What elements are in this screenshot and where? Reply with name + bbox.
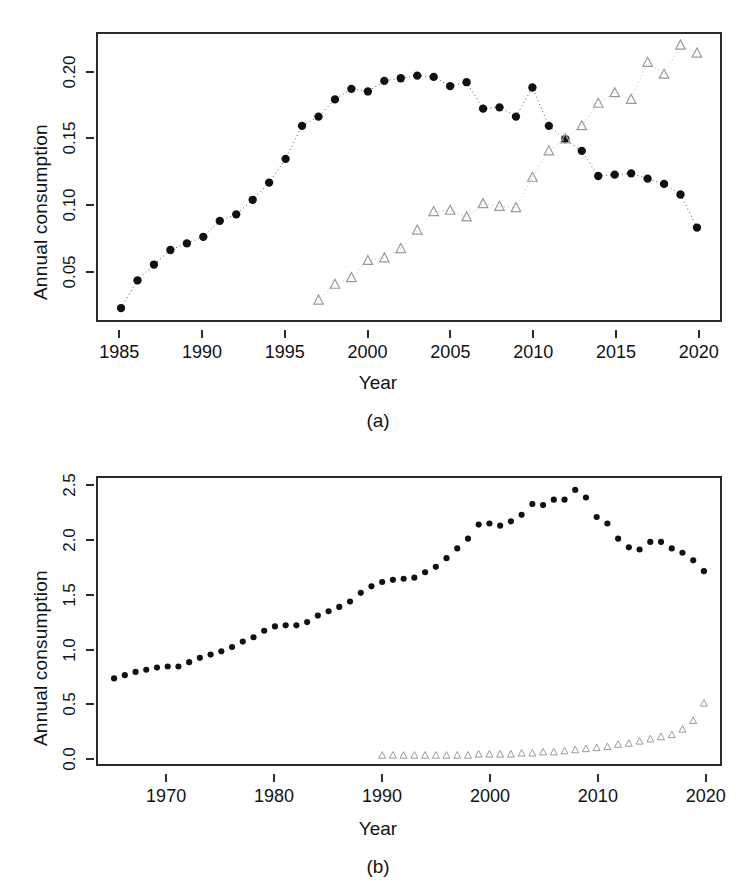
data-point-triangle — [422, 752, 429, 759]
data-point-circle — [433, 564, 439, 570]
data-point-circle — [594, 514, 600, 520]
data-point-circle — [298, 122, 306, 130]
data-point-triangle — [380, 253, 390, 262]
data-point-circle — [397, 74, 405, 82]
data-point-circle — [165, 663, 171, 669]
data-point-circle — [443, 555, 449, 561]
data-point-circle — [462, 78, 470, 86]
x-tick-label: 1970 — [126, 786, 206, 807]
y-tick-mark — [86, 758, 94, 760]
data-point-circle — [199, 233, 207, 241]
data-point-circle — [658, 539, 664, 545]
x-tick-label: 2010 — [558, 786, 638, 807]
data-point-circle — [611, 171, 619, 179]
panel-a-letter: (a) — [0, 410, 756, 432]
data-point-circle — [111, 675, 117, 681]
y-tick-mark — [86, 703, 94, 705]
panel-b-y-axis-title: Annual consumption — [30, 570, 52, 746]
y-tick-label: 0.0 — [60, 748, 80, 772]
data-point-triangle — [636, 738, 643, 745]
data-point-circle — [261, 628, 267, 634]
data-point-circle — [476, 522, 482, 528]
data-point-circle — [454, 545, 460, 551]
data-point-triangle — [700, 700, 707, 707]
x-tick-label: 1980 — [234, 786, 314, 807]
data-point-circle — [331, 95, 339, 103]
series-connector-line — [121, 76, 697, 308]
data-point-circle — [519, 512, 525, 518]
data-point-circle — [150, 260, 158, 268]
data-point-circle — [336, 604, 342, 610]
data-point-circle — [132, 669, 138, 675]
data-point-circle — [358, 590, 364, 596]
x-tick-mark — [165, 774, 167, 782]
y-tick-mark — [86, 539, 94, 541]
data-point-triangle — [396, 244, 406, 253]
data-point-triangle — [443, 752, 450, 759]
data-point-triangle — [454, 752, 461, 759]
x-tick-label: 2000 — [450, 786, 530, 807]
x-tick-label: 1990 — [342, 786, 422, 807]
data-point-circle — [249, 196, 257, 204]
x-tick-label: 2005 — [410, 342, 490, 363]
data-point-circle — [512, 112, 520, 120]
x-tick-label: 1995 — [245, 342, 325, 363]
data-point-circle — [208, 652, 214, 658]
data-point-triangle — [445, 205, 455, 214]
data-point-triangle — [615, 741, 622, 748]
data-point-circle — [364, 87, 372, 95]
data-point-circle — [413, 71, 421, 79]
data-point-triangle — [462, 212, 472, 221]
x-tick-mark — [615, 330, 617, 338]
data-point-circle — [679, 550, 685, 556]
y-tick-label: 0.05 — [60, 256, 80, 289]
data-point-triangle — [692, 48, 702, 57]
y-tick-label: 1.5 — [60, 583, 80, 607]
data-point-triangle — [400, 752, 407, 759]
data-point-circle — [578, 147, 586, 155]
data-point-triangle — [658, 733, 665, 740]
panel-b-data-layer — [98, 478, 720, 764]
data-point-triangle — [540, 748, 547, 755]
series-open-triangles — [379, 700, 708, 759]
data-point-circle — [143, 667, 149, 673]
data-point-circle — [229, 644, 235, 650]
data-point-triangle — [528, 172, 538, 181]
y-tick-label: 0.20 — [60, 55, 80, 88]
y-tick-mark — [86, 137, 94, 139]
x-tick-mark — [532, 330, 534, 338]
y-tick-mark — [86, 204, 94, 206]
data-point-triangle — [647, 735, 654, 742]
y-tick-label: 2.0 — [60, 528, 80, 552]
data-point-circle — [401, 576, 407, 582]
data-point-triangle — [679, 726, 686, 733]
series-open-triangles — [314, 40, 702, 304]
data-point-circle — [508, 518, 514, 524]
data-point-triangle — [561, 747, 568, 754]
x-tick-label: 2015 — [576, 342, 656, 363]
data-point-circle — [422, 569, 428, 575]
panel-a-y-axis-title: Annual consumption — [30, 124, 52, 300]
data-point-triangle — [529, 749, 536, 756]
y-tick-mark — [86, 271, 94, 273]
data-point-circle — [465, 536, 471, 542]
data-point-circle — [183, 239, 191, 247]
data-point-triangle — [411, 752, 418, 759]
data-point-circle — [660, 180, 668, 188]
series-connector-line — [318, 45, 696, 300]
data-point-circle — [647, 539, 653, 545]
data-point-circle — [325, 608, 331, 614]
x-tick-label: 2020 — [659, 342, 739, 363]
data-point-circle — [572, 487, 578, 493]
data-point-circle — [197, 655, 203, 661]
data-point-triangle — [432, 752, 439, 759]
data-point-circle — [293, 622, 299, 628]
data-point-triangle — [478, 199, 488, 208]
data-point-circle — [265, 178, 273, 186]
data-point-circle — [701, 568, 707, 574]
data-point-circle — [175, 663, 181, 669]
data-point-circle — [314, 112, 322, 120]
y-tick-label: 2.5 — [60, 473, 80, 497]
data-point-triangle — [497, 751, 504, 758]
data-point-circle — [411, 575, 417, 581]
